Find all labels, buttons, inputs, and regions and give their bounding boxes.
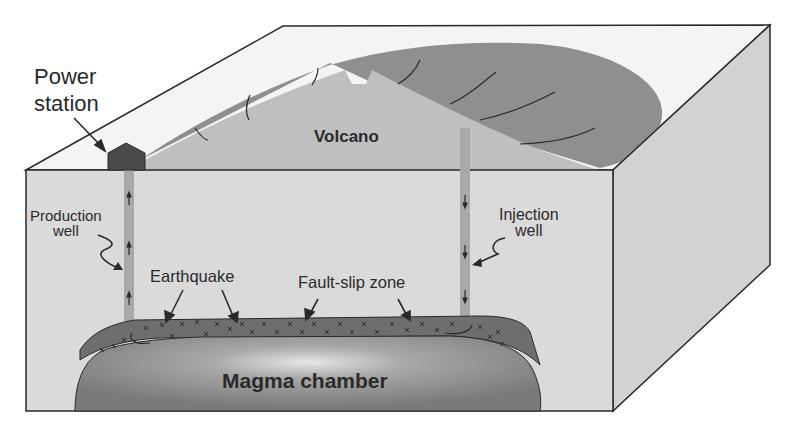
earthquake-label: Earthquake xyxy=(150,268,234,285)
injection-well-label-line2: well xyxy=(499,223,559,239)
production-well-label-line1: Production xyxy=(30,208,102,223)
production-well-label-line2: well xyxy=(30,223,102,238)
geothermal-block-diagram xyxy=(0,0,800,428)
injection-well-label-line1: Injection xyxy=(499,207,559,223)
production-well-label: Production well xyxy=(30,208,102,238)
magma-chamber-label: Magma chamber xyxy=(222,370,388,391)
power-station-label-line1: Power xyxy=(34,66,99,88)
fault-slip-zone-label: Fault-slip zone xyxy=(298,274,405,291)
power-station-label: Power station xyxy=(34,66,99,115)
power-station-label-line2: station xyxy=(34,93,99,115)
volcano-label: Volcano xyxy=(314,128,379,145)
injection-well-label: Injection well xyxy=(499,207,559,239)
